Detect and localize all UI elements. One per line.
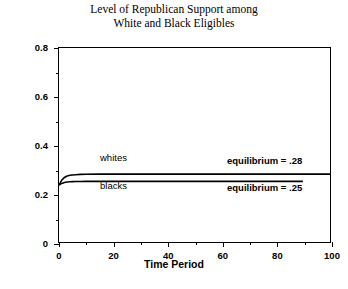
chart-title-line-1: Level of Republican Support among	[0, 2, 348, 16]
series-label-blacks: blacks	[100, 180, 127, 191]
equilibrium-annotation-whites: equilibrium = .28	[227, 155, 302, 166]
x-tick-mark	[168, 242, 169, 247]
y-tick-label: 0	[22, 238, 48, 249]
y-tick-mark	[54, 97, 59, 98]
chart-title-line-2: White and Black Eligibles	[0, 16, 348, 30]
x-tick-mark-minor	[250, 242, 251, 245]
x-tick-mark	[59, 242, 60, 247]
plot-area: 00.20.40.60.8020406080100	[58, 47, 331, 243]
y-tick-mark-minor	[56, 220, 59, 221]
y-tick-mark-minor	[56, 73, 59, 74]
chart-title: Level of Republican Support among White …	[0, 2, 348, 30]
series-label-whites: whites	[100, 152, 127, 163]
x-tick-mark-minor	[196, 242, 197, 245]
chart-figure: Level of Republican Support among White …	[0, 0, 348, 289]
y-tick-mark-minor	[56, 171, 59, 172]
x-tick-mark-minor	[86, 242, 87, 245]
x-tick-mark-minor	[305, 242, 306, 245]
series-lines	[59, 48, 330, 242]
y-tick-label: 0.6	[22, 91, 48, 102]
x-tick-mark	[332, 242, 333, 247]
y-tick-label: 0.4	[22, 140, 48, 151]
x-tick-mark-minor	[141, 242, 142, 245]
y-tick-label: 0.8	[22, 42, 48, 53]
y-tick-mark	[54, 146, 59, 147]
y-tick-label: 0.2	[22, 189, 48, 200]
y-tick-mark	[54, 48, 59, 49]
x-axis-title: Time Period	[0, 258, 348, 270]
x-tick-mark	[114, 242, 115, 247]
equilibrium-annotation-blacks: equilibrium = .25	[227, 182, 302, 193]
y-tick-mark-minor	[56, 122, 59, 123]
x-tick-mark	[223, 242, 224, 247]
y-tick-mark	[54, 195, 59, 196]
x-tick-mark	[277, 242, 278, 247]
